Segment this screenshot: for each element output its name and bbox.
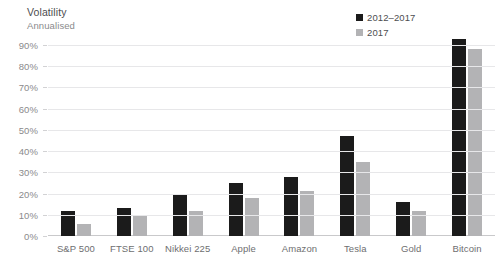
legend-item[interactable]: 2012–2017 xyxy=(356,12,415,23)
bar[interactable] xyxy=(77,224,91,236)
y-axis-tick xyxy=(43,151,47,152)
x-axis-label: Bitcoin xyxy=(439,243,495,254)
square-swatch-icon xyxy=(356,14,363,21)
gridline xyxy=(48,45,495,46)
bar-group: Apple xyxy=(216,45,272,236)
bar-group: S&P 500 xyxy=(48,45,104,236)
x-axis-label: Nikkei 225 xyxy=(160,243,216,254)
y-axis-label: 70% xyxy=(2,82,38,93)
x-axis-label: Amazon xyxy=(272,243,328,254)
bar-group: FTSE 100 xyxy=(104,45,160,236)
chart-subtitle: Annualised xyxy=(27,20,75,31)
gridline xyxy=(48,172,495,173)
legend-label: 2012–2017 xyxy=(367,12,415,23)
plot-area: S&P 500FTSE 100Nikkei 225AppleAmazonTesl… xyxy=(48,45,495,236)
y-axis-label: 20% xyxy=(2,188,38,199)
bar[interactable] xyxy=(229,183,243,236)
gridline xyxy=(48,130,495,131)
y-axis-label: 60% xyxy=(2,103,38,114)
y-axis-tick xyxy=(43,194,47,195)
x-axis-label: Apple xyxy=(216,243,272,254)
y-axis-tick xyxy=(43,87,47,88)
y-axis-tick xyxy=(43,66,47,67)
bar-group: Bitcoin xyxy=(439,45,495,236)
y-axis-tick xyxy=(43,215,47,216)
x-axis-label: FTSE 100 xyxy=(104,243,160,254)
y-axis-label: 40% xyxy=(2,146,38,157)
bar-group: Gold xyxy=(383,45,439,236)
bar[interactable] xyxy=(117,208,131,236)
y-axis-label: 80% xyxy=(2,61,38,72)
y-axis-label: 50% xyxy=(2,124,38,135)
gridline xyxy=(48,151,495,152)
y-axis-label: 10% xyxy=(2,209,38,220)
chart-title: Volatility xyxy=(27,6,67,18)
legend-label: 2017 xyxy=(367,27,389,38)
y-axis-tick xyxy=(43,130,47,131)
bar-group: Nikkei 225 xyxy=(160,45,216,236)
gridline xyxy=(48,109,495,110)
square-swatch-icon xyxy=(356,29,363,36)
legend-item[interactable]: 2017 xyxy=(356,27,415,38)
x-axis-label: S&P 500 xyxy=(48,243,104,254)
bar[interactable] xyxy=(245,198,259,236)
y-axis-tick xyxy=(43,172,47,173)
bar-group: Tesla xyxy=(327,45,383,236)
bar-group: Amazon xyxy=(272,45,328,236)
bar[interactable] xyxy=(452,39,466,236)
gridline xyxy=(48,87,495,88)
y-axis-tick xyxy=(43,236,47,237)
bar-groups: S&P 500FTSE 100Nikkei 225AppleAmazonTesl… xyxy=(48,45,495,236)
y-axis-tick xyxy=(43,109,47,110)
bar[interactable] xyxy=(396,202,410,236)
y-axis-label: 0% xyxy=(2,231,38,242)
x-axis-label: Tesla xyxy=(327,243,383,254)
bar[interactable] xyxy=(468,49,482,236)
bar[interactable] xyxy=(284,177,298,236)
gridline xyxy=(48,215,495,216)
x-axis-label: Gold xyxy=(383,243,439,254)
bar[interactable] xyxy=(133,215,147,236)
gridline xyxy=(48,194,495,195)
gridline xyxy=(48,66,495,67)
bar[interactable] xyxy=(300,191,314,236)
y-axis-label: 90% xyxy=(2,40,38,51)
y-axis-label: 30% xyxy=(2,167,38,178)
y-axis-tick xyxy=(43,45,47,46)
chart-legend: 2012–20172017 xyxy=(356,12,415,38)
volatility-bar-chart: Volatility Annualised 2012–20172017 S&P … xyxy=(0,0,503,272)
